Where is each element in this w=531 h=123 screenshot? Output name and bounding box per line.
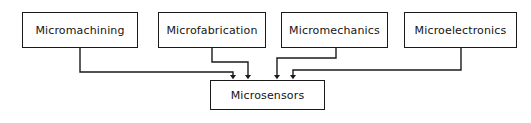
node-microsensors: Microsensors [210,80,325,110]
node-micromachining-label: Micromachining [35,25,124,36]
node-micromachining: Micromachining [22,12,138,48]
connector-microelectronics-to-microsensors [293,48,461,77]
node-microsensors-label: Microsensors [231,90,305,101]
node-microfabrication-label: Microfabrication [166,25,257,36]
node-micromechanics: Micromechanics [281,12,388,48]
node-micromechanics-label: Micromechanics [289,25,380,36]
block-diagram: Micromachining Microfabrication Micromec… [0,0,531,123]
connector-micromechanics-to-microsensors [277,48,336,77]
node-microelectronics-label: Microelectronics [415,25,507,36]
node-microelectronics: Microelectronics [404,12,517,48]
node-microfabrication: Microfabrication [158,12,266,48]
connector-micromachining-to-microsensors [80,48,233,77]
